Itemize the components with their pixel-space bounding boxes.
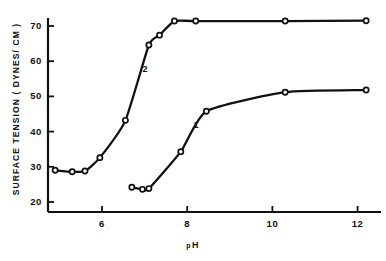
data-point: [193, 18, 198, 23]
x-axis-title-main: H: [192, 240, 200, 250]
series-2: [53, 18, 369, 174]
data-point: [172, 18, 177, 23]
series-1: [129, 87, 369, 191]
data-point: [364, 87, 369, 92]
curve-line-1: [132, 90, 366, 190]
data-point: [283, 90, 288, 95]
x-tick-label: 6: [90, 218, 114, 229]
curve-label-1: 1: [194, 120, 199, 130]
x-tick-label: 10: [260, 218, 284, 229]
y-tick-label: 20: [16, 196, 42, 207]
x-axis-title: pH: [0, 240, 386, 250]
data-point: [97, 155, 102, 160]
data-point: [146, 42, 151, 47]
data-point: [140, 187, 145, 192]
data-point: [146, 186, 151, 191]
curve-line-2: [55, 20, 366, 171]
data-point: [364, 18, 369, 23]
y-axis-title: SURFACE TENSION ( DYNES/ CM ): [11, 9, 21, 209]
y-tick-label: 70: [16, 20, 42, 31]
data-point: [204, 109, 209, 114]
x-tick-label: 12: [346, 218, 370, 229]
data-point: [53, 168, 58, 173]
y-tick-label: 30: [16, 161, 42, 172]
data-point: [123, 118, 128, 123]
curve-label-2: 2: [142, 64, 147, 74]
data-point: [129, 185, 134, 190]
data-point: [178, 149, 183, 154]
y-tick-label: 60: [16, 55, 42, 66]
x-tick-label: 8: [175, 218, 199, 229]
y-tick-label: 50: [16, 90, 42, 101]
y-tick-label: 40: [16, 126, 42, 137]
data-point: [283, 18, 288, 23]
data-point: [157, 33, 162, 38]
data-point: [82, 168, 87, 173]
data-point: [70, 169, 75, 174]
figure: SURFACE TENSION ( DYNES/ CM ) pH 2030405…: [0, 0, 386, 261]
